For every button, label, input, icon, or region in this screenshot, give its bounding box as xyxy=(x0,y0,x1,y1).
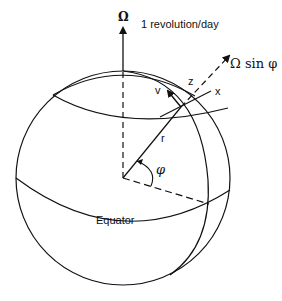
phi-angle-arc xyxy=(137,161,153,186)
latitude-circle xyxy=(53,95,228,119)
v-vector-label: v xyxy=(155,84,161,96)
radius-label: r xyxy=(161,132,165,144)
x-axis-label: x xyxy=(215,85,221,97)
phi-label: φ xyxy=(156,162,166,177)
equator-label: Equator xyxy=(96,214,135,226)
rotation-rate-label: 1 revolution/day xyxy=(141,18,219,30)
z-axis-label: z xyxy=(188,75,194,87)
equator-radius-dashed xyxy=(123,178,209,204)
omega-sin-phi-label: Ω sin φ xyxy=(230,56,277,71)
meridian-line xyxy=(123,71,208,275)
earth-rotation-diagram: Ω 1 revolution/day Ω sin φ z x v r φ Equ… xyxy=(0,0,282,301)
omega-label: Ω xyxy=(118,10,129,24)
